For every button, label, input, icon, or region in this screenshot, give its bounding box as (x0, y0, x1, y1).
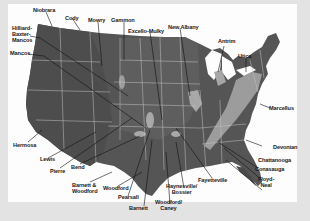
label-mowry: Mowry (88, 17, 105, 23)
label-haynesville-bossier: Haynesville/ Bossier (166, 183, 197, 195)
label-woodford-caney: Woodford/ Caney (155, 199, 182, 211)
label-chattanooga: Chattanooga (258, 157, 291, 163)
label-utica: Utica (238, 53, 251, 59)
label-hermosa: Hermosa (13, 142, 36, 148)
label-lewis: Lewis (40, 156, 55, 162)
label-hilliard-baxter-mancos: Hilliard- Baxter- Mancos (12, 25, 32, 43)
label-fayetteville: Fayetteville (198, 177, 227, 183)
label-pearsall: Pearsall (118, 194, 139, 200)
label-woodford: Woodford (103, 185, 129, 191)
label-marcellus: Marcellus (269, 105, 294, 111)
label-conasauga: Conasauga (255, 166, 284, 172)
label-gammon: Gammon (111, 17, 135, 23)
label-cody: Cody (65, 15, 79, 21)
label-excello-mulky: Excello-Mulky (128, 28, 164, 34)
label-pierre: Pierre (50, 168, 65, 174)
label-barnett: Barnett (129, 205, 148, 211)
label-barnett-woodford: Barnett & Woodford (72, 182, 98, 194)
label-new-albany: New Albany (168, 24, 199, 30)
label-niobrara: Niobrara (33, 7, 55, 13)
label-antrim: Antrim (218, 38, 235, 44)
label-bend: Bend (71, 164, 85, 170)
label-mancos: Mancos (10, 50, 30, 56)
label-devonian: Devonian (273, 144, 297, 150)
label-floyd-neal: Floyd- Neal (258, 176, 274, 188)
